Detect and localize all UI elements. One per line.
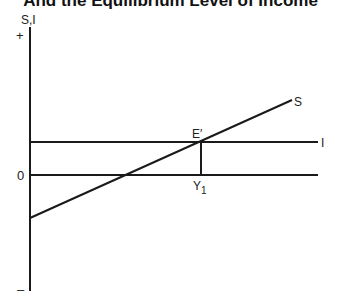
y-axis-label: S,I [21, 13, 36, 27]
minus-sign: – [17, 282, 25, 297]
saving-investment-diagram: S,I + 0 – S I E′ Y1 [0, 0, 341, 307]
plus-sign: + [16, 28, 24, 43]
investment-curve-label: I [321, 136, 324, 150]
income-level-label: Y1 [193, 179, 207, 196]
equilibrium-point-label: E′ [192, 127, 203, 141]
saving-line [30, 100, 292, 218]
zero-label: 0 [17, 168, 24, 183]
saving-curve-label: S [294, 95, 302, 109]
